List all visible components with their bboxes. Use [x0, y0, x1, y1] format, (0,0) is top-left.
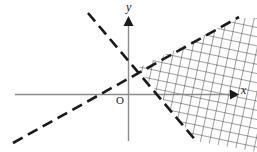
origin-label: O [116, 95, 124, 106]
y-axis-label: y [126, 1, 131, 13]
diagram-canvas [0, 0, 257, 152]
y-axis-arrowhead [124, 16, 134, 26]
shaded-region [138, 18, 257, 152]
x-axis-label: x [241, 84, 246, 96]
coordinate-diagram: y x O [0, 0, 257, 152]
y-axis [124, 16, 134, 141]
